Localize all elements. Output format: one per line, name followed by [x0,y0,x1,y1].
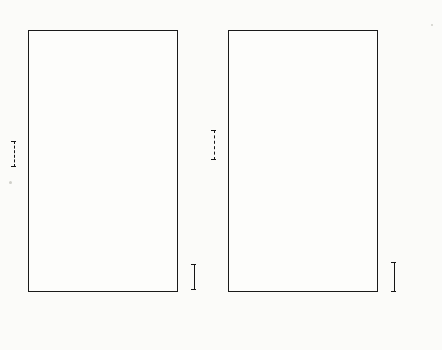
scan-speck [431,24,433,26]
molarity-legend-cap-right [11,141,16,142]
top-panel [0,0,200,350]
bottom-panel [200,0,410,350]
bottom-panel-curves [200,0,410,350]
molarity-legend-line [14,141,15,167]
hcg-legend-line [214,130,215,160]
top-panel-curves [0,0,200,350]
figure-caption [420,330,431,336]
hlh-legend-cap-right [391,262,396,263]
hcg-legend-cap-left [211,159,216,160]
figure-stage [0,0,442,350]
od-legend-cap-left [191,289,196,290]
od-legend-line [194,264,195,290]
molarity-legend-cap-left [11,166,16,167]
od-legend-cap-right [191,264,196,265]
scan-speck [9,181,12,184]
hlh-legend-cap-left [391,291,396,292]
hlh-legend-line [394,262,395,292]
hcg-legend-cap-right [211,130,216,131]
